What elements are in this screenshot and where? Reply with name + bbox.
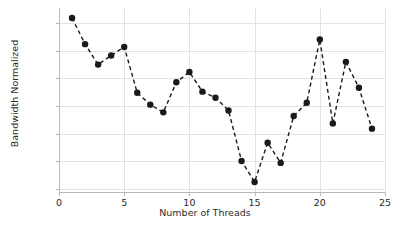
x-tick-label: 0 xyxy=(44,197,74,208)
gridline-vertical xyxy=(385,8,386,193)
x-tick-label: 20 xyxy=(305,197,335,208)
series-line xyxy=(72,18,372,182)
x-tick-mark xyxy=(124,193,125,196)
chart-figure: Bandwidth Normalized Number of Threads 0… xyxy=(0,0,410,231)
x-tick-label: 15 xyxy=(240,197,270,208)
x-tick-mark xyxy=(189,193,190,196)
data-point xyxy=(330,120,336,126)
x-tick-label: 25 xyxy=(370,197,400,208)
data-point xyxy=(108,52,114,58)
data-point xyxy=(304,100,310,106)
data-point xyxy=(225,107,231,113)
data-point xyxy=(199,88,205,94)
data-point xyxy=(186,69,192,75)
data-point xyxy=(69,15,75,21)
data-point xyxy=(147,101,153,107)
data-point xyxy=(173,79,179,85)
data-point xyxy=(121,44,127,50)
x-tick-mark xyxy=(320,193,321,196)
x-tick-label: 10 xyxy=(174,197,204,208)
data-point xyxy=(369,125,375,131)
x-axis-label: Number of Threads xyxy=(0,207,410,218)
data-point xyxy=(82,41,88,47)
data-point xyxy=(160,109,166,115)
data-point xyxy=(134,90,140,96)
x-tick-mark xyxy=(385,193,386,196)
data-point xyxy=(277,160,283,166)
data-point xyxy=(356,85,362,91)
data-point xyxy=(264,140,270,146)
y-axis-label: Bandwidth Normalized xyxy=(9,1,20,186)
data-point xyxy=(291,113,297,119)
x-tick-mark xyxy=(59,193,60,196)
data-series xyxy=(59,8,385,193)
x-tick-label: 5 xyxy=(109,197,139,208)
data-point xyxy=(317,36,323,42)
x-tick-mark xyxy=(255,193,256,196)
data-point xyxy=(212,95,218,101)
data-point xyxy=(251,179,257,185)
plot-area: 0.940.950.960.970.980.991.00 0510152025 xyxy=(59,8,385,193)
data-point xyxy=(238,158,244,164)
data-point xyxy=(343,59,349,65)
data-point xyxy=(95,61,101,67)
